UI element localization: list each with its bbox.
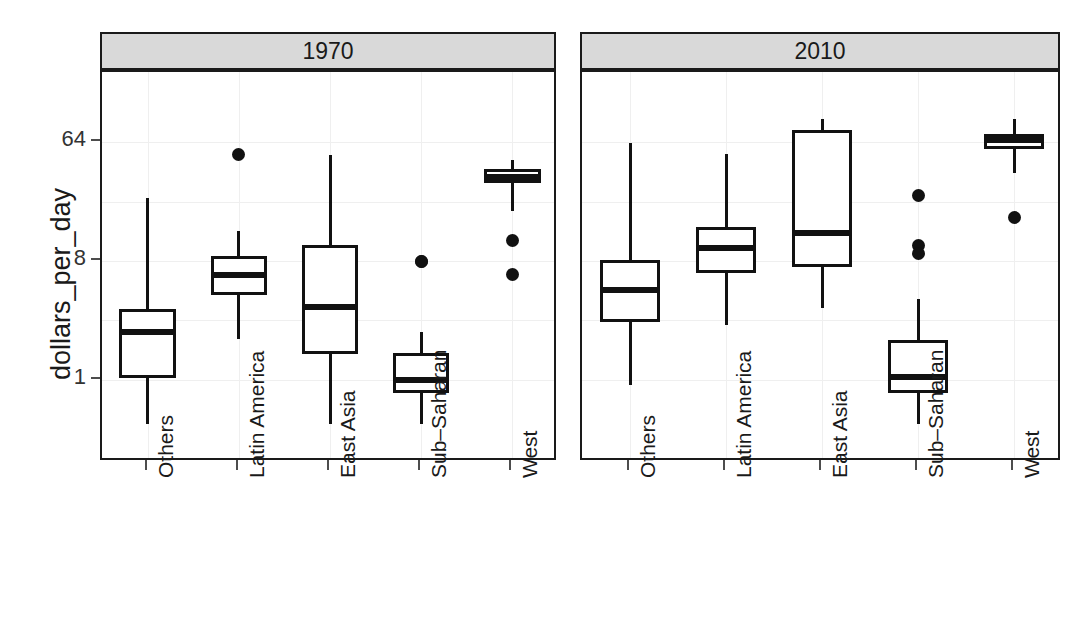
plot-area xyxy=(100,70,556,460)
boxplot-west xyxy=(582,72,1060,458)
x-tick-mark xyxy=(236,460,238,470)
y-tick-mark xyxy=(91,258,100,260)
x-tick-label: Others xyxy=(636,415,660,478)
y-tick-label: 64 xyxy=(62,126,86,152)
x-tick-mark xyxy=(819,460,821,470)
x-tick-mark xyxy=(1011,460,1013,470)
y-tick-mark xyxy=(91,377,100,379)
whisker-upper xyxy=(1013,119,1016,133)
x-tick-label: West xyxy=(1020,431,1044,478)
facet-strip-label: 2010 xyxy=(580,32,1060,70)
whisker-lower xyxy=(511,183,514,211)
x-tick-label: West xyxy=(518,431,542,478)
x-tick-mark xyxy=(509,460,511,470)
boxplot-west xyxy=(102,72,556,458)
x-tick-label: Latin America xyxy=(732,351,756,478)
plot-area xyxy=(580,70,1060,460)
x-tick-mark xyxy=(418,460,420,470)
y-tick-mark xyxy=(91,139,100,141)
y-tick-label: 8 xyxy=(74,245,86,271)
x-tick-mark xyxy=(915,460,917,470)
outlier-point xyxy=(506,268,519,281)
x-tick-mark xyxy=(627,460,629,470)
x-tick-label: Latin America xyxy=(245,351,269,478)
whisker-upper xyxy=(511,160,514,169)
x-tick-label: East Asia xyxy=(336,390,360,478)
outlier-point xyxy=(1008,211,1021,224)
median-line xyxy=(484,174,541,180)
chart-root: dollars_per_day 1864 19702010 OthersLati… xyxy=(0,0,1090,639)
facet-panel-2010: 2010 xyxy=(580,32,1060,460)
facet-strip-label: 1970 xyxy=(100,32,556,70)
x-tick-mark xyxy=(327,460,329,470)
facet-panel-1970: 1970 xyxy=(100,32,556,460)
x-tick-label: Sub–Saharan xyxy=(427,350,451,478)
facet-strip-text: 1970 xyxy=(302,38,353,65)
x-tick-label: Sub–Saharan xyxy=(924,350,948,478)
median-line xyxy=(984,137,1044,143)
y-tick-label: 1 xyxy=(74,364,86,390)
x-tick-label: Others xyxy=(154,415,178,478)
facet-strip-text: 2010 xyxy=(794,38,845,65)
x-tick-label: East Asia xyxy=(828,390,852,478)
outlier-point xyxy=(506,234,519,247)
x-tick-mark xyxy=(723,460,725,470)
x-tick-mark xyxy=(145,460,147,470)
whisker-lower xyxy=(1013,149,1016,174)
y-axis-title: dollars_per_day xyxy=(46,187,77,379)
